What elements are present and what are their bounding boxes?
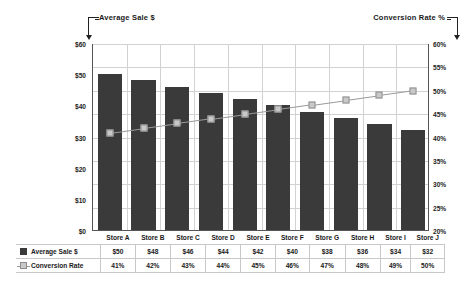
table-cell-average-sale: $48 — [135, 245, 170, 259]
y-axis-tick-label: $30 — [46, 134, 86, 141]
y-axis-tick-label: $20 — [46, 165, 86, 172]
gridline-vertical — [396, 44, 397, 230]
gridline-vertical — [228, 44, 229, 230]
y-axis-tick-label: $10 — [46, 196, 86, 203]
table-cell-average-sale: $32 — [411, 245, 445, 259]
right-axis-annotation: Conversion Rate % — [373, 13, 445, 22]
gridline-vertical — [160, 44, 161, 230]
line-marker — [241, 111, 248, 118]
y2-axis-tick-label: 50% — [433, 87, 473, 94]
table-cell-conversion-rate: 49% — [380, 259, 411, 273]
table-category-header: Store I — [380, 231, 411, 245]
right-axis-pointer — [447, 17, 458, 36]
left-axis-pointer — [88, 17, 99, 36]
left-axis-annotation: Average Sale $ — [99, 13, 155, 22]
table-category-header: Store J — [411, 231, 445, 245]
table-cell-conversion-rate: 44% — [206, 259, 241, 273]
y-axis-tick-label: $50 — [46, 72, 86, 79]
plot-area — [92, 44, 429, 231]
table-corner-cell — [16, 231, 101, 245]
line-marker — [376, 92, 383, 99]
line-marker — [342, 97, 349, 104]
y2-axis-tick-label: 30% — [433, 181, 473, 188]
line-marker — [309, 101, 316, 108]
line-marker — [106, 129, 113, 136]
line-swatch-icon — [20, 262, 27, 269]
table-cell-average-sale: $34 — [380, 245, 411, 259]
right-axis-pointer-dash — [447, 19, 451, 20]
table-row-categories: Store AStore BStore CStore DStore EStore… — [16, 231, 445, 245]
data-table: Store AStore BStore CStore DStore EStore… — [16, 231, 445, 273]
gridline-vertical — [295, 44, 296, 230]
table-category-header: Store G — [309, 231, 345, 245]
gridline-vertical — [363, 44, 364, 230]
table-cell-conversion-rate: 43% — [170, 259, 205, 273]
table-cell-conversion-rate: 48% — [345, 259, 380, 273]
bar — [233, 99, 257, 230]
bar — [131, 80, 155, 230]
gridline-vertical — [127, 44, 128, 230]
gridline-vertical — [262, 44, 263, 230]
y2-axis-tick-label: 60% — [433, 41, 473, 48]
table-row: Average Sale $ $50$48$46$44$42$40$38$36$… — [16, 245, 445, 259]
bar — [401, 130, 425, 230]
table-category-header: Store B — [135, 231, 170, 245]
y2-axis-tick-label: 55% — [433, 64, 473, 71]
table-row: Conversion Rate 41%42%43%44%45%46%47%48%… — [16, 259, 445, 273]
table-rowhead-average-sale: Average Sale $ — [16, 245, 101, 259]
line-marker — [275, 106, 282, 113]
chart-screenshot: Average Sale $ Conversion Rate % $0$10$2… — [0, 0, 476, 281]
y-axis-tick-label: $60 — [46, 41, 86, 48]
line-marker — [140, 125, 147, 132]
y2-axis-tick-label: 40% — [433, 134, 473, 141]
table-category-header: Store H — [345, 231, 380, 245]
gridline-vertical — [194, 44, 195, 230]
gridline-vertical — [329, 44, 330, 230]
table-cell-conversion-rate: 42% — [135, 259, 170, 273]
bar — [266, 105, 290, 230]
y2-axis-tick-label: 25% — [433, 204, 473, 211]
table-cell-conversion-rate: 41% — [101, 259, 136, 273]
y2-axis-tick-label: 35% — [433, 157, 473, 164]
table-cell-conversion-rate: 45% — [241, 259, 276, 273]
table-category-header: Store A — [101, 231, 136, 245]
bar — [165, 87, 189, 230]
table-category-header: Store E — [241, 231, 276, 245]
line-marker — [174, 120, 181, 127]
table-category-header: Store D — [206, 231, 241, 245]
table-category-header: Store F — [275, 231, 309, 245]
line-marker — [207, 115, 214, 122]
table-category-header: Store C — [170, 231, 205, 245]
line-marker — [410, 87, 417, 94]
table-rowhead-label: Conversion Rate — [31, 262, 83, 269]
bar — [98, 74, 122, 230]
table-rowhead-conversion-rate: Conversion Rate — [16, 259, 101, 273]
bar — [334, 118, 358, 230]
table-cell-conversion-rate: 47% — [309, 259, 345, 273]
bar-swatch-icon — [20, 248, 27, 255]
table-cell-conversion-rate: 50% — [411, 259, 445, 273]
table-cell-conversion-rate: 46% — [275, 259, 309, 273]
table-cell-average-sale: $40 — [275, 245, 309, 259]
table-cell-average-sale: $42 — [241, 245, 276, 259]
table-cell-average-sale: $44 — [206, 245, 241, 259]
table-rowhead-label: Average Sale $ — [31, 248, 78, 255]
bar — [300, 112, 324, 230]
plot-area-wrapper: $0$10$20$30$40$50$60 20%25%30%35%40%45%5… — [0, 40, 476, 230]
y2-axis-tick-label: 45% — [433, 111, 473, 118]
gridline-horizontal — [93, 44, 428, 45]
gridline-horizontal — [93, 67, 428, 68]
bar — [367, 124, 391, 230]
table-cell-average-sale: $46 — [170, 245, 205, 259]
bar — [199, 93, 223, 230]
table-cell-average-sale: $38 — [309, 245, 345, 259]
table-cell-average-sale: $50 — [101, 245, 136, 259]
table-cell-average-sale: $36 — [345, 245, 380, 259]
y-axis-tick-label: $40 — [46, 103, 86, 110]
